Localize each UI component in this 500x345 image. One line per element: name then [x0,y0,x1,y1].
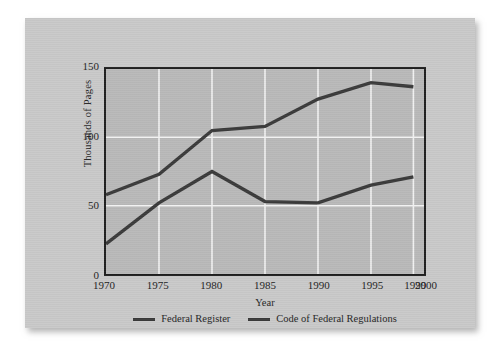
figure-root: Thousands of Pages 050100150 19701975198… [0,0,500,345]
x-tick-label: 1995 [361,280,383,291]
legend-item-label: Federal Register [161,314,230,325]
y-tick-label: 150 [59,61,99,72]
chart-card: Thousands of Pages 050100150 19701975198… [25,18,475,328]
x-tick-label: 2000 [415,280,437,291]
x-axis-title: Year [104,297,426,308]
series-line-2 [106,83,413,195]
plot-svg [106,69,424,274]
legend-item-1: Federal Register [133,314,230,325]
gridlines [106,69,424,274]
y-tick-label: 100 [59,131,99,142]
x-tick-label: 1980 [200,280,222,291]
legend-item-2: Code of Federal Regulations [248,314,396,325]
x-tick-label: 1970 [93,280,115,291]
x-tick-label: 1975 [147,280,169,291]
series-lines [106,83,413,244]
chart-legend: Federal RegisterCode of Federal Regulati… [65,314,465,325]
legend-line-swatch-icon [248,318,270,321]
series-line-1 [106,172,413,244]
y-tick-label: 50 [59,200,99,211]
x-tick-label: 1985 [254,280,276,291]
x-tick-label: 1990 [308,280,330,291]
legend-item-label: Code of Federal Regulations [276,314,396,325]
plot-area [104,67,426,276]
x-axis-tick-labels: 19701975198019851990199519992000 [104,280,426,296]
legend-line-swatch-icon [133,318,155,321]
y-axis-tick-labels: 050100150 [55,67,99,276]
